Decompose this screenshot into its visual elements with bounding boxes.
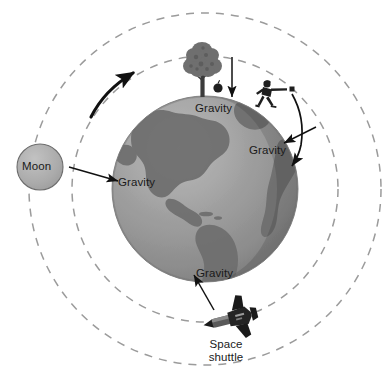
space-shuttle-label-line2: shuttle — [195, 351, 257, 364]
thrown-ball — [290, 87, 295, 92]
moon-gravity-arrow — [69, 167, 118, 181]
gravity-label-bottom: Gravity — [196, 267, 233, 280]
landmass-caribbean-2 — [214, 216, 222, 220]
ball-gravity-arrow — [284, 127, 316, 143]
moon-label: Moon — [22, 160, 51, 173]
gravity-label-left: Gravity — [118, 176, 155, 189]
ball-trajectory-arrow — [292, 94, 302, 166]
space-shuttle-label-line1: Space — [195, 338, 257, 351]
falling-apple — [213, 80, 222, 92]
gravity-label-top: Gravity — [195, 102, 232, 115]
gravity-diagram: Moon Gravity Gravity Gravity Gravity Spa… — [0, 0, 388, 386]
person-throwing-ball — [255, 80, 287, 108]
diagram-canvas — [0, 0, 388, 386]
gravity-label-right: Gravity — [249, 144, 286, 157]
landmass-caribbean-1 — [199, 212, 213, 217]
